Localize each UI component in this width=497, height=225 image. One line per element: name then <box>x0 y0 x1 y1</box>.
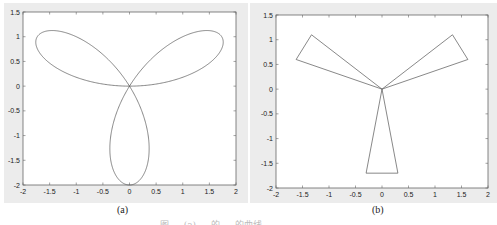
x-tick-label: -1.5 <box>296 191 308 198</box>
x-tick-label: 0 <box>380 191 384 198</box>
x-tick-label: 2 <box>486 191 490 198</box>
x-tick-label: -0.5 <box>349 191 361 198</box>
x-tick-label: -2 <box>273 191 279 198</box>
subplot-label-b: (b) <box>372 204 384 215</box>
chart-b-triangle-petals: -2-1.5-1-0.500.511.52-2-1.5-1-0.500.511.… <box>0 0 497 225</box>
x-tick-label: 1.5 <box>457 191 467 198</box>
x-tick-label: 0.5 <box>404 191 414 198</box>
subplot-label-a: (a) <box>117 204 128 215</box>
x-tick-label: -1 <box>326 191 332 198</box>
y-tick-label: 0 <box>269 86 273 93</box>
y-tick-label: 1.5 <box>263 12 273 19</box>
figure-caption: 图 … (a) … 的 … 的曲线 <box>160 218 340 225</box>
x-tick-label: 1 <box>433 191 437 198</box>
y-tick-label: -1 <box>267 135 273 142</box>
y-tick-label: 0.5 <box>263 61 273 68</box>
y-tick-label: -1.5 <box>261 160 273 167</box>
y-tick-label: -0.5 <box>261 110 273 117</box>
y-tick-label: 1 <box>269 36 273 43</box>
y-tick-label: -2 <box>267 185 273 192</box>
